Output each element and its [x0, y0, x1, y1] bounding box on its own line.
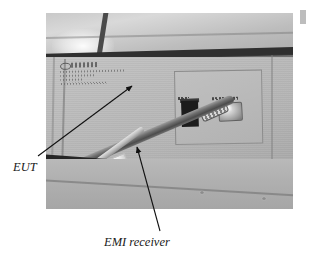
placard-line — [60, 69, 124, 73]
figure-page: nsi EUT EMI receiver — [0, 0, 309, 270]
annotation-label-eut: EUT — [13, 160, 37, 175]
placard-logo-oval-icon — [60, 63, 71, 70]
page-corner-mark — [300, 10, 306, 24]
placard-line — [60, 82, 106, 85]
annotation-label-emi-receiver: EMI receiver — [104, 235, 170, 250]
floor-area — [46, 159, 293, 209]
placard-logo — [60, 62, 100, 68]
placard-line — [60, 78, 82, 81]
placard-brand-text — [71, 62, 98, 68]
floor-bolt — [262, 197, 266, 200]
floor-bolt — [200, 191, 204, 194]
equipment-placard — [60, 61, 125, 89]
placard-line — [60, 74, 94, 77]
placard-spec-lines — [60, 69, 124, 87]
setup-photograph: nsi — [46, 13, 293, 209]
panel-seam-right — [271, 55, 273, 165]
